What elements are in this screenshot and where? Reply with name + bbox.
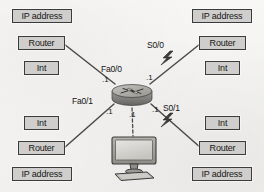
label-router-top-left: Router [18, 36, 65, 50]
interface-label-fa0-1: Fa0/1 [72, 97, 93, 106]
octet-pc-link: .1 [129, 111, 136, 119]
label-int-bottom-left: Int [24, 116, 59, 130]
label-int-top-right: Int [205, 61, 240, 75]
label-ip-address-top-left: IP address [12, 9, 72, 23]
label-router-bottom-right: Router [199, 141, 246, 155]
label-ip-address-bottom-right: IP address [192, 167, 252, 181]
octet-fa0-0: .1 [102, 76, 109, 84]
network-diagram-canvas: IP address Router Int IP address Router … [0, 0, 264, 192]
label-router-top-right: Router [199, 36, 246, 50]
interface-label-s0-0: S0/0 [147, 41, 164, 50]
label-int-top-left: Int [24, 61, 59, 75]
label-ip-address-top-right: IP address [192, 9, 252, 23]
serial-link-bolt-s0-0 [160, 50, 176, 66]
octet-fa0-1: .1 [106, 108, 113, 116]
desktop-computer-icon [108, 134, 160, 184]
interface-label-fa0-0: Fa0/0 [101, 65, 122, 74]
octet-s0-0: .1 [146, 74, 153, 82]
serial-link-bolt-s0-1 [160, 112, 176, 128]
label-ip-address-bottom-left: IP address [12, 167, 72, 181]
cisco-router-icon [110, 82, 154, 108]
label-int-bottom-right: Int [205, 116, 240, 130]
label-router-bottom-left: Router [18, 141, 65, 155]
